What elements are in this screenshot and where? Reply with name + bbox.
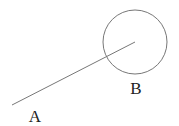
geometry-diagram: A B [0,0,179,126]
segment-ab [12,42,135,105]
point-label-a: A [29,107,42,126]
point-label-b: B [130,79,141,98]
